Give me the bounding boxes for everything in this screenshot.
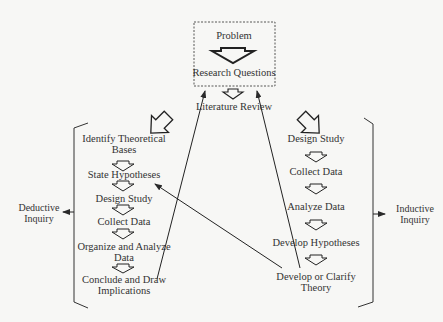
deductive-step-design-study: Design Study xyxy=(96,193,153,204)
deductive-step-identify-theoretical-bases: Identify Theoretical Bases xyxy=(82,133,165,155)
deductive-step-collect-data: Collect Data xyxy=(98,216,151,227)
literature-review-label: Literature Review xyxy=(196,101,272,112)
inductive-step-develop-clarify-theory: Develop or Clarify Theory xyxy=(276,271,355,293)
inductive-step-analyze-data: Analyze Data xyxy=(287,201,344,212)
big-down-arrow-icon xyxy=(212,48,254,63)
research-questions-label: Research Questions xyxy=(192,67,275,78)
research-process-diagram: Problem Research Questions Literature Re… xyxy=(0,0,443,322)
deductive-step-conclude-draw-implications: Conclude and Draw Implications xyxy=(82,274,166,296)
deductive-step-state-hypotheses: State Hypotheses xyxy=(88,169,161,180)
feedback-line-theory-to-hypotheses xyxy=(155,184,282,268)
inductive-bracket xyxy=(358,118,373,307)
inductive-inquiry-label: Inductive Inquiry xyxy=(396,203,434,225)
deductive-step-organize-analyze-data: Organize and Analyze Data xyxy=(77,241,170,263)
down-arrow-icon xyxy=(223,89,243,99)
deductive-inquiry-label: Deductive Inquiry xyxy=(18,202,59,224)
inductive-step-develop-hypotheses: Develop Hypotheses xyxy=(272,237,359,248)
problem-label: Problem xyxy=(216,30,252,41)
diagram-graphics xyxy=(0,0,443,322)
inductive-step-collect-data: Collect Data xyxy=(290,166,343,177)
inductive-step-design-study: Design Study xyxy=(288,133,345,144)
